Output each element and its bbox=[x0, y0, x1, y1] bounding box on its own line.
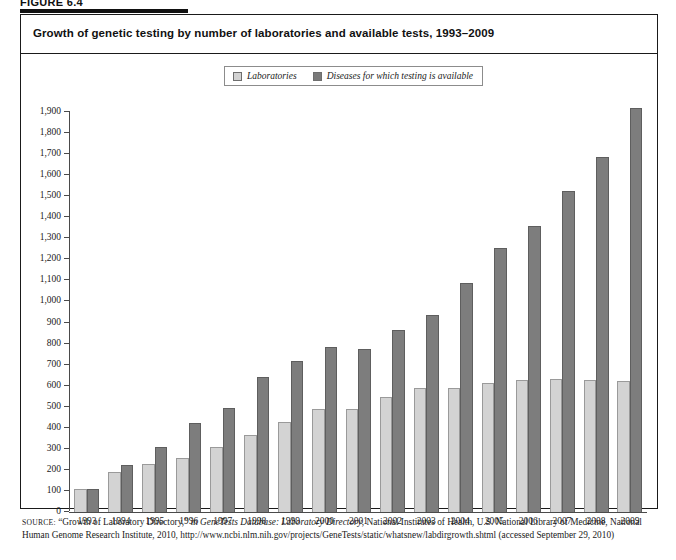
y-axis-tick bbox=[64, 364, 69, 365]
y-axis-tick-label: 600 bbox=[47, 380, 61, 390]
chart-legend: Laboratories Diseases for which testing … bbox=[224, 66, 483, 86]
bar-group bbox=[511, 111, 545, 512]
bar-diseases bbox=[596, 157, 609, 512]
y-axis-tick-label: 900 bbox=[47, 317, 61, 327]
bar-laboratories bbox=[346, 409, 359, 512]
bar-diseases bbox=[87, 489, 100, 512]
chart-title: Growth of genetic testing by number of l… bbox=[33, 27, 494, 39]
bar-laboratories bbox=[210, 447, 223, 512]
bar-group bbox=[308, 111, 342, 512]
bar-group bbox=[172, 111, 206, 512]
bar-group bbox=[70, 111, 104, 512]
bar-group bbox=[545, 111, 579, 512]
legend-label-diseases: Diseases for which testing is available bbox=[327, 71, 473, 81]
bar-diseases bbox=[528, 226, 541, 512]
y-axis-tick bbox=[64, 448, 69, 449]
bar-laboratories bbox=[380, 397, 393, 512]
y-axis-tick bbox=[64, 258, 69, 259]
y-axis-tick bbox=[64, 511, 69, 512]
bar-laboratories bbox=[142, 464, 155, 512]
y-axis-tick bbox=[64, 111, 69, 112]
bar-diseases bbox=[494, 248, 507, 512]
bar-laboratories bbox=[312, 409, 325, 512]
bar-diseases bbox=[189, 423, 202, 512]
bar-laboratories bbox=[176, 458, 189, 512]
bar-laboratories bbox=[108, 472, 121, 512]
plot-area: 01002003004005006007008009001,0001,1001,… bbox=[69, 111, 647, 513]
y-axis-tick-label: 1,900 bbox=[40, 106, 61, 116]
figure-page: FIGURE 6.4 Growth of genetic testing by … bbox=[0, 0, 676, 560]
bar-group bbox=[206, 111, 240, 512]
y-axis-tick-label: 1,300 bbox=[40, 232, 61, 242]
y-axis-tick-label: 400 bbox=[47, 422, 61, 432]
source-part1: “Growth of Laboratory Directory,” in bbox=[56, 517, 200, 527]
bar-diseases bbox=[562, 191, 575, 512]
bar-diseases bbox=[257, 377, 270, 512]
y-axis-tick bbox=[64, 406, 69, 407]
bar-diseases bbox=[223, 408, 236, 512]
title-divider bbox=[21, 53, 657, 54]
y-axis-tick-label: 1,700 bbox=[40, 148, 61, 158]
source-lead: SOURCE: bbox=[22, 518, 56, 527]
bar-group bbox=[375, 111, 409, 512]
figure-frame: Growth of genetic testing by number of l… bbox=[20, 14, 658, 509]
y-axis-tick bbox=[64, 153, 69, 154]
bar-group bbox=[104, 111, 138, 512]
bar-group bbox=[138, 111, 172, 512]
bar-group bbox=[274, 111, 308, 512]
y-axis-tick-label: 200 bbox=[47, 464, 61, 474]
y-axis-tick-label: 500 bbox=[47, 401, 61, 411]
y-axis-tick bbox=[64, 427, 69, 428]
bar-group bbox=[443, 111, 477, 512]
bar-diseases bbox=[121, 465, 134, 512]
bar-laboratories bbox=[584, 380, 597, 512]
bar-series-container bbox=[70, 111, 647, 512]
source-italic-title: GeneTests Database: Laboratory Directory bbox=[200, 517, 362, 527]
y-axis-tick-label: 0 bbox=[56, 506, 61, 516]
figure-number-rule bbox=[20, 9, 188, 13]
bar-laboratories bbox=[617, 381, 630, 512]
y-axis-tick-label: 1,500 bbox=[40, 190, 61, 200]
legend-swatch-dark-icon bbox=[313, 72, 322, 81]
legend-label-laboratories: Laboratories bbox=[247, 71, 297, 81]
bar-laboratories bbox=[244, 435, 257, 512]
y-axis-tick-label: 800 bbox=[47, 338, 61, 348]
bar-diseases bbox=[630, 108, 643, 512]
y-axis-tick-label: 1,800 bbox=[40, 127, 61, 137]
y-axis-tick-label: 700 bbox=[47, 359, 61, 369]
y-axis-tick-label: 1,000 bbox=[40, 295, 61, 305]
bar-group bbox=[579, 111, 613, 512]
bar-group bbox=[477, 111, 511, 512]
bar-laboratories bbox=[516, 380, 529, 512]
legend-item-laboratories: Laboratories bbox=[233, 71, 297, 81]
y-axis-tick-label: 1,400 bbox=[40, 211, 61, 221]
figure-number: FIGURE 6.4 bbox=[20, 0, 83, 8]
legend-swatch-light-icon bbox=[233, 72, 242, 81]
bar-diseases bbox=[426, 315, 439, 512]
y-axis-tick bbox=[64, 279, 69, 280]
y-axis-tick-label: 100 bbox=[47, 485, 61, 495]
y-axis-tick-label: 300 bbox=[47, 443, 61, 453]
bar-laboratories bbox=[74, 489, 87, 512]
bar-laboratories bbox=[550, 379, 563, 512]
bar-diseases bbox=[358, 349, 371, 512]
bar-laboratories bbox=[448, 388, 461, 512]
bar-laboratories bbox=[278, 422, 291, 512]
bar-laboratories bbox=[414, 388, 427, 512]
bar-diseases bbox=[392, 330, 405, 512]
y-axis-tick bbox=[64, 490, 69, 491]
y-axis-tick-label: 1,200 bbox=[40, 253, 61, 263]
bar-group bbox=[409, 111, 443, 512]
bar-diseases bbox=[460, 283, 473, 512]
y-axis-tick bbox=[64, 237, 69, 238]
y-axis-tick-label: 1,100 bbox=[40, 274, 61, 284]
y-axis-tick bbox=[64, 195, 69, 196]
y-axis-tick bbox=[64, 216, 69, 217]
y-axis-tick-label: 1,600 bbox=[40, 169, 61, 179]
y-axis-tick bbox=[64, 469, 69, 470]
y-axis-tick bbox=[64, 300, 69, 301]
bar-group bbox=[342, 111, 376, 512]
source-note: SOURCE: “Growth of Laboratory Directory,… bbox=[22, 516, 658, 542]
y-axis-tick bbox=[64, 385, 69, 386]
y-axis-tick bbox=[64, 174, 69, 175]
